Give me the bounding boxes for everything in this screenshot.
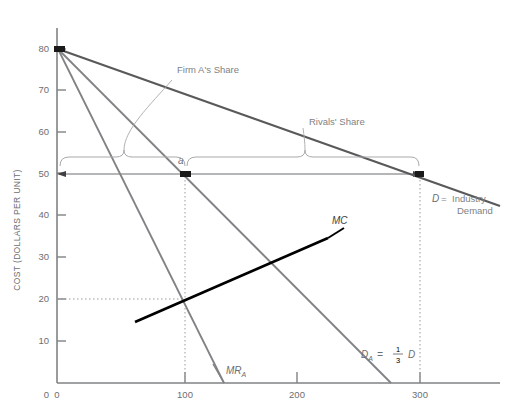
marginal-cost-curve bbox=[135, 238, 328, 322]
origin-80-marker bbox=[54, 46, 65, 52]
d-a-label-main: D bbox=[361, 349, 368, 360]
industry-demand-line2: Demand bbox=[457, 205, 493, 216]
y-tick-marks bbox=[57, 49, 66, 341]
x-tick-label-200: 200 bbox=[289, 389, 305, 400]
industry-demand-equals: = bbox=[441, 193, 447, 204]
x-tick-label-300: 300 bbox=[412, 389, 428, 400]
x-tick-label-100: 100 bbox=[177, 389, 193, 400]
x-tick-labels: 0 100 200 300 bbox=[54, 389, 428, 400]
economics-chart: 80 70 60 50 40 30 20 10 0 0 100 200 300 … bbox=[0, 0, 510, 413]
rivals-share-label: Rivals' Share bbox=[309, 116, 365, 127]
y-axis-title: COST (DOLLARS PER UNIT) bbox=[12, 169, 22, 290]
svg-text:MRA: MRA bbox=[226, 365, 247, 378]
firm-a-share-label: Firm A's Share bbox=[177, 64, 239, 75]
d-a-label-d: D bbox=[408, 349, 415, 360]
rivals-share-brace bbox=[187, 150, 419, 166]
y-tick-label-60: 60 bbox=[38, 126, 49, 137]
mr-a-leader bbox=[213, 364, 224, 383]
y-tick-label-0: 0 bbox=[44, 389, 49, 400]
point-300-marker bbox=[415, 171, 424, 177]
price-line-left-arrow bbox=[57, 171, 66, 177]
y-tick-label-20: 20 bbox=[38, 293, 49, 304]
curves-group bbox=[58, 49, 500, 383]
price-level-line bbox=[57, 171, 422, 177]
mc-label: MC bbox=[332, 215, 348, 226]
y-tick-label-50: 50 bbox=[38, 168, 49, 179]
y-tick-label-10: 10 bbox=[38, 335, 49, 346]
mr-a-label: MRA bbox=[226, 365, 247, 378]
y-tick-label-40: 40 bbox=[38, 209, 49, 220]
industry-demand-line1: Industry bbox=[452, 193, 486, 204]
y-tick-labels: 80 70 60 50 40 30 20 10 0 bbox=[38, 43, 49, 400]
d-a-fraction-denominator: 3 bbox=[396, 356, 400, 365]
y-tick-label-80: 80 bbox=[38, 43, 49, 54]
y-tick-label-30: 30 bbox=[38, 251, 49, 262]
industry-demand-label: D = Industry Demand bbox=[432, 193, 493, 216]
x-tick-label-0: 0 bbox=[54, 389, 59, 400]
d-a-fraction-numerator: 1 bbox=[396, 345, 400, 354]
y-tick-label-70: 70 bbox=[38, 84, 49, 95]
rivals-share-leader bbox=[303, 128, 305, 150]
d-a-equals: = bbox=[377, 349, 383, 360]
d-a-label-sub: A bbox=[367, 355, 373, 362]
chart-svg: 80 70 60 50 40 30 20 10 0 0 100 200 300 … bbox=[0, 0, 510, 413]
axes-group bbox=[57, 28, 500, 383]
svg-text:D: D bbox=[432, 193, 439, 204]
industry-demand-d: D bbox=[432, 193, 439, 204]
mr-a-label-sub: A bbox=[241, 371, 247, 378]
point-a-dot bbox=[180, 171, 191, 177]
mr-a-label-main: MR bbox=[226, 365, 242, 376]
mc-leader bbox=[328, 228, 344, 238]
svg-text:DA=: DA= bbox=[361, 349, 383, 362]
